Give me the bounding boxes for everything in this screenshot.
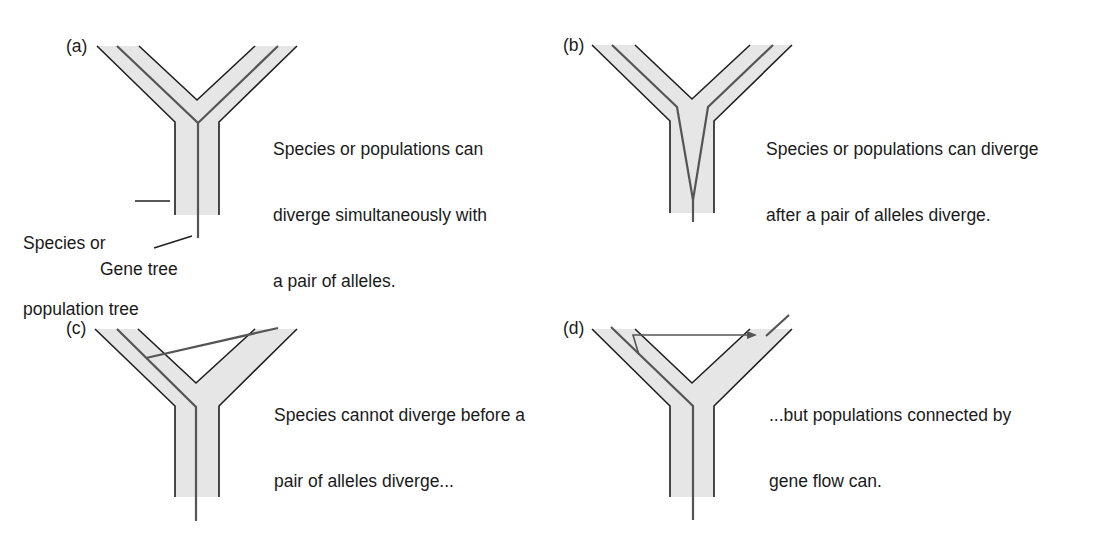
panel-c-tree (95, 328, 297, 521)
panel-b-caption: Species or populations can diverge after… (766, 94, 1038, 248)
panel-d-label: (d) (563, 318, 584, 338)
panel-a-label: (a) (66, 36, 87, 56)
panel-a-caption: Species or populations can diverge simul… (273, 94, 487, 314)
panel-c-caption: Species cannot diverge before a pair of … (274, 360, 525, 514)
panel-b-tree (592, 45, 792, 222)
panel-b-label: (b) (563, 35, 584, 55)
panel-d-caption: ...but populations connected by gene flo… (769, 360, 1011, 514)
gene-tree-legend: Gene tree (100, 258, 178, 280)
panel-d-tree (592, 315, 792, 520)
